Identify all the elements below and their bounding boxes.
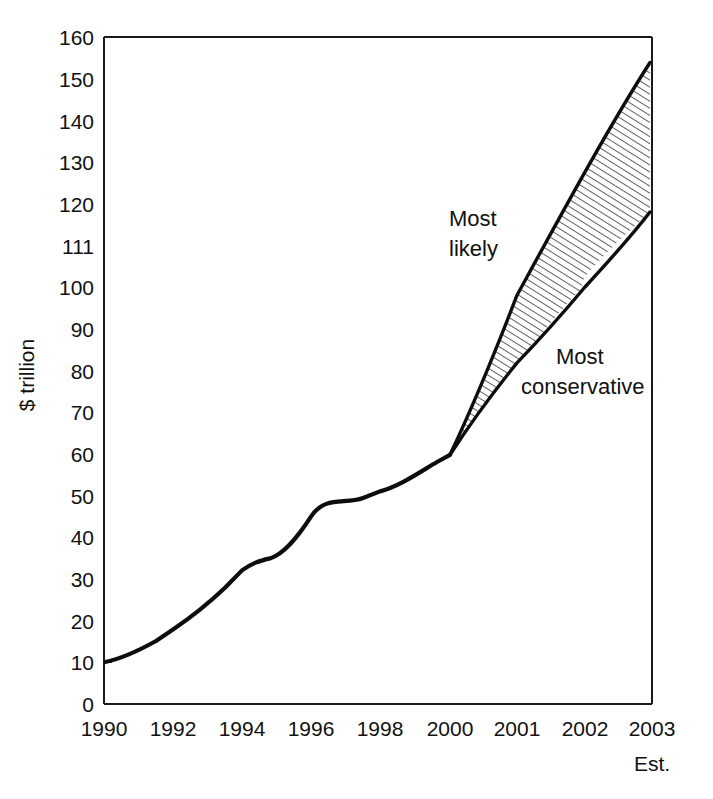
x-tick-label: 2000	[427, 717, 474, 740]
y-tick-label: 150	[59, 68, 94, 91]
annotation-most-conservative: Most conservative	[521, 344, 645, 399]
y-tick-label: 30	[71, 568, 94, 591]
line-chart-with-forecast-band: 0 10 20 30 40 50 60 70 80 90 100 111 120…	[0, 0, 713, 799]
y-tick-label: 60	[71, 443, 94, 466]
x-tick-label: 2003	[629, 717, 676, 740]
historical-trend-line	[104, 455, 450, 663]
y-tick-label: 20	[71, 610, 94, 633]
y-tick-label: 90	[71, 318, 94, 341]
y-tick-label: 140	[59, 110, 94, 133]
y-tick-label: 0	[82, 693, 94, 716]
y-tick-label: 80	[71, 360, 94, 383]
x-tick-label: 2001	[494, 717, 541, 740]
x-axis-estimate-note: Est.	[634, 752, 670, 775]
annotation-line-2: likely	[449, 236, 498, 261]
y-tick-label: 120	[59, 193, 94, 216]
x-axis-tick-labels: 1990 1992 1994 1996 1998 2000 2001 2002 …	[81, 717, 676, 775]
y-tick-label: 100	[59, 276, 94, 299]
y-axis-tick-labels: 0 10 20 30 40 50 60 70 80 90 100 111 120…	[59, 26, 94, 716]
annotation-line-1: Most	[449, 206, 497, 231]
x-tick-label: 1992	[150, 717, 197, 740]
y-tick-label: 130	[59, 151, 94, 174]
plot-frame	[104, 37, 652, 704]
y-tick-label: 111	[62, 235, 94, 258]
y-tick-label: 40	[71, 526, 94, 549]
x-tick-label: 1994	[219, 717, 266, 740]
y-tick-label: 10	[71, 651, 94, 674]
y-tick-label: 50	[71, 485, 94, 508]
y-axis-title: $ trillion	[15, 339, 38, 411]
x-tick-label: 1996	[288, 717, 335, 740]
annotation-most-likely: Most likely	[449, 206, 498, 261]
annotation-line-2: conservative	[521, 374, 645, 399]
y-tick-label: 160	[59, 26, 94, 49]
x-tick-label: 2002	[562, 717, 609, 740]
x-tick-label: 1998	[357, 717, 404, 740]
x-tick-label: 1990	[81, 717, 128, 740]
annotation-line-1: Most	[556, 344, 604, 369]
chart-container: 0 10 20 30 40 50 60 70 80 90 100 111 120…	[0, 0, 713, 799]
y-tick-label: 70	[71, 401, 94, 424]
